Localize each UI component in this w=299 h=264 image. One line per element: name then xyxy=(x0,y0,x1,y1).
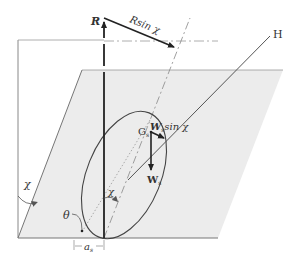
label-R: R xyxy=(90,15,100,28)
label-chi-center: χ xyxy=(107,186,115,197)
theta-point xyxy=(81,230,84,233)
label-a-s: as xyxy=(84,241,93,253)
inclined-plane-diagram: R Rsin χ H Gs Wssin χ Ws χ χ θ as xyxy=(0,0,299,264)
label-R-sin-chi: Rsin χ xyxy=(127,13,162,36)
label-theta: θ xyxy=(63,209,70,222)
label-H: H xyxy=(273,28,283,41)
label-chi-left: χ xyxy=(23,178,32,191)
label-Ws-sin-chi: Wssin χ xyxy=(150,121,189,133)
